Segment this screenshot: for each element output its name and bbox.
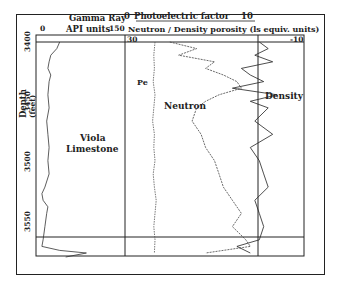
gamma-min-label: 0	[40, 25, 45, 33]
pe-curve-label: Pe	[137, 78, 148, 86]
depth-tick-3550: 3550	[24, 211, 32, 232]
pe-curve	[153, 42, 157, 253]
porosity-min-label: 30	[127, 36, 137, 44]
porosity-max-label: -10	[290, 36, 304, 44]
gamma-ray-title: Gamma Ray	[69, 14, 126, 23]
depth-tick-3450: 3450	[24, 91, 32, 112]
pe-title: Photoelectric factor	[134, 12, 229, 21]
pe-max-label: 10	[241, 12, 253, 21]
formation-label-line1: Viola	[80, 134, 106, 143]
well-log-plot	[0, 0, 340, 286]
porosity-title: Neutron / Density porosity (ls equiv. un…	[128, 25, 319, 33]
density-curve-label: Density	[265, 92, 303, 101]
neutron-curve	[170, 42, 251, 253]
depth-tick-3400: 3400	[24, 31, 32, 52]
gamma-max-label: 150	[109, 25, 125, 33]
neutron-curve-label: Neutron	[164, 102, 206, 111]
pe-min-label: 0	[124, 12, 130, 21]
density-curve	[232, 42, 277, 253]
gamma-units: API units	[66, 25, 110, 34]
formation-label-line2: Limestone	[66, 145, 119, 154]
depth-tick-3500: 3500	[24, 151, 32, 172]
